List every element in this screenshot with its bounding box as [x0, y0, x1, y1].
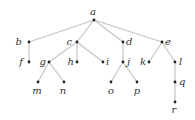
- node-p: [136, 81, 139, 84]
- edge-e-k: [149, 42, 162, 62]
- node-label-m: m: [32, 85, 41, 96]
- node-label-l: l: [179, 56, 182, 67]
- node-o: [110, 81, 113, 84]
- edge-g-n: [49, 62, 64, 82]
- node-label-p: p: [134, 85, 141, 96]
- node-label-c: c: [66, 36, 72, 47]
- node-label-f: f: [18, 56, 25, 67]
- node-n: [63, 81, 66, 84]
- edge-c-i: [77, 42, 103, 62]
- node-label-a: a: [90, 6, 96, 17]
- node-k: [148, 61, 151, 64]
- node-label-r: r: [172, 104, 178, 115]
- edge-a-b: [29, 20, 94, 42]
- edge-a-d: [94, 20, 123, 42]
- node-label-q: q: [179, 76, 185, 87]
- node-m: [37, 81, 40, 84]
- node-label-g: g: [40, 56, 46, 67]
- node-c: [76, 41, 79, 44]
- tree-diagram: abcdefghijklmnopqr: [0, 0, 195, 120]
- node-j: [122, 61, 125, 64]
- node-label-e: e: [165, 36, 171, 47]
- node-f: [28, 61, 31, 64]
- edge-j-o: [111, 62, 123, 82]
- node-label-o: o: [108, 85, 114, 96]
- node-r: [174, 101, 177, 104]
- node-g: [48, 61, 51, 64]
- node-i: [102, 61, 105, 64]
- node-label-h: h: [68, 56, 74, 67]
- tree-canvas: abcdefghijklmnopqr: [0, 0, 195, 120]
- node-label-i: i: [106, 56, 109, 67]
- node-l: [174, 61, 177, 64]
- node-q: [174, 81, 177, 84]
- node-b: [28, 41, 31, 44]
- edge-layer: [29, 20, 175, 102]
- node-label-d: d: [126, 36, 132, 47]
- node-label-n: n: [60, 85, 66, 96]
- node-a: [93, 19, 96, 22]
- node-e: [161, 41, 164, 44]
- node-label-k: k: [140, 56, 146, 67]
- node-d: [122, 41, 125, 44]
- node-label-b: b: [16, 36, 22, 47]
- node-h: [76, 61, 79, 64]
